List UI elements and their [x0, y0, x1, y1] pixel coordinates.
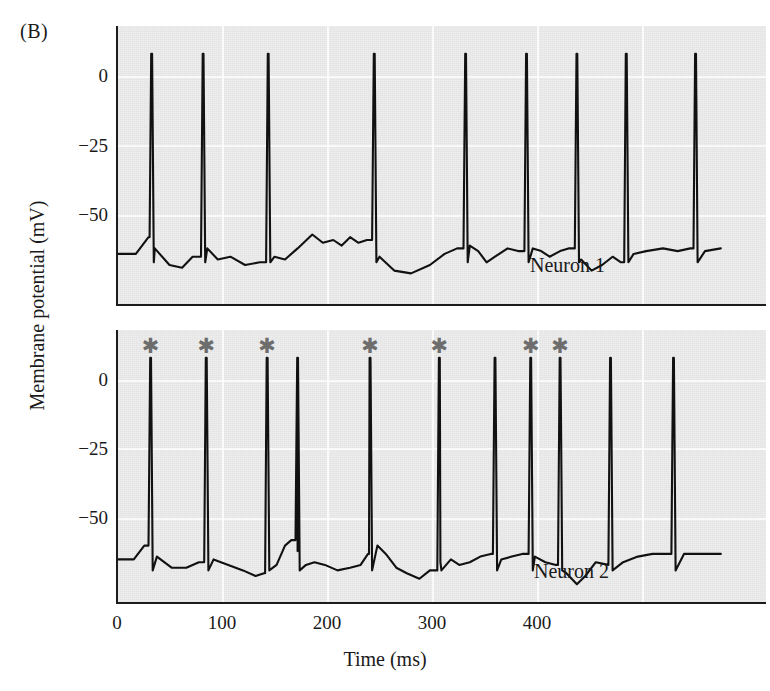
plot-panel-neuron-1: Neuron 1: [118, 26, 766, 304]
x-tick-label: 200: [313, 612, 342, 634]
y-tick-label: −25: [46, 135, 108, 157]
trace-label-neuron-2: Neuron 2: [534, 560, 609, 583]
x-axis-line-top: [116, 304, 766, 306]
asterisk-marker: ✱: [522, 336, 540, 357]
asterisk-marker: ✱: [258, 336, 276, 357]
plot-panel-neuron-2: Neuron 2: [118, 330, 766, 602]
asterisk-marker: ✱: [142, 336, 160, 357]
figure-panel-b: (B) Membrane potential (mV) Neuron 1: [0, 0, 770, 691]
trace-neuron-1: [118, 26, 766, 304]
y-axis-line-top: [116, 26, 118, 306]
y-tick-label: −50: [46, 204, 108, 226]
x-axis-title: Time (ms): [0, 648, 770, 671]
y-axis-line-bottom: [116, 330, 118, 604]
x-tick-label: 400: [523, 612, 552, 634]
asterisk-marker: ✱: [431, 336, 449, 357]
trace-neuron-2: [118, 330, 766, 602]
x-axis-line-bottom: [116, 602, 766, 604]
y-tick-label: 0: [46, 65, 108, 87]
asterisk-marker: ✱: [197, 336, 215, 357]
x-tick-label: 300: [418, 612, 447, 634]
y-tick-label: −25: [46, 438, 108, 460]
trace-label-neuron-1: Neuron 1: [530, 254, 605, 277]
x-tick-label: 100: [208, 612, 237, 634]
y-tick-label: −50: [46, 507, 108, 529]
x-tick-label: 0: [112, 612, 122, 634]
panel-letter: (B): [20, 20, 48, 43]
asterisk-marker: ✱: [361, 336, 379, 357]
asterisk-marker: ✱: [551, 336, 569, 357]
y-tick-label: 0: [46, 369, 108, 391]
